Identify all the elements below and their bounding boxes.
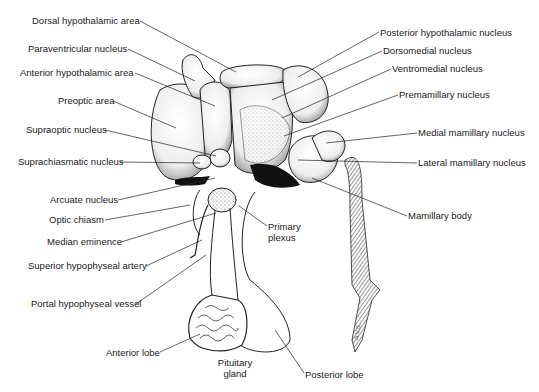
label-supraoptic-nucleus: Supraoptic nucleus <box>26 124 107 135</box>
supraoptic-shape <box>210 149 230 167</box>
label-arcuate-nucleus: Arcuate nucleus <box>50 194 118 205</box>
label-anterior-lobe: Anterior lobe <box>106 347 160 358</box>
label-anterior-hypothalamic-area: Anterior hypothalamic area <box>20 67 134 78</box>
pituitary-stalk <box>210 208 238 300</box>
label-portal-hypophyseal-vessel: Portal hypophyseal vessel <box>31 298 141 309</box>
label-dorsal-hypothalamic-area: Dorsal hypothalamic area <box>32 15 140 26</box>
label-median-eminence: Median eminence <box>47 236 122 247</box>
label-superior-hypophyseal-artery: Superior hypophyseal artery <box>28 260 147 271</box>
label-suprachiasmatic-nucleus: Suprachiasmatic nucleus <box>18 156 124 167</box>
suprachiasmatic-shape <box>193 155 211 169</box>
label-medial-mamillary-nucleus: Medial mamillary nucleus <box>418 127 525 138</box>
label-paraventricular-nucleus: Paraventricular nucleus <box>28 43 127 54</box>
label-lateral-mamillary-nucleus: Lateral mamillary nucleus <box>418 157 526 168</box>
optic-chiasm-shape <box>193 190 200 235</box>
superior-hypophyseal-artery <box>190 205 208 258</box>
label-posterior-hypothalamic-nucleus: Posterior hypothalamic nucleus <box>380 27 512 38</box>
posterior-lobe-shape <box>240 192 290 352</box>
arcuate-nucleus-shape <box>208 188 236 212</box>
anterior-hypothalamic-shape <box>200 82 232 160</box>
label-preoptic-area: Preoptic area <box>58 95 115 106</box>
label-mamillary-body: Mamillary body <box>408 210 472 221</box>
hypothalamus-pituitary-diagram: A.V.S. Dorsal hypotha <box>0 0 539 392</box>
label-optic-chiasm: Optic chiasm <box>49 214 104 225</box>
label-posterior-lobe: Posterior lobe <box>305 369 364 380</box>
label-pituitary-gland: Pituitary gland <box>215 357 255 379</box>
anterior-lobe-shape <box>189 295 247 351</box>
label-primary-plexus: Primary plexus <box>268 221 308 243</box>
label-dorsomedial-nucleus: Dorsomedial nucleus <box>383 45 472 56</box>
label-ventromedial-nucleus: Ventromedial nucleus <box>392 63 483 74</box>
label-premamillary-nucleus: Premamillary nucleus <box>399 89 490 100</box>
fornix-tract <box>345 157 380 352</box>
